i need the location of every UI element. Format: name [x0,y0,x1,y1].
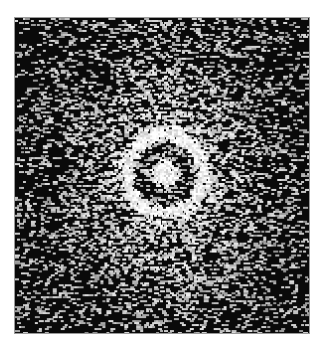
diffraction-pattern-image [14,17,310,334]
page [0,0,326,352]
speckle-canvas [15,18,309,333]
